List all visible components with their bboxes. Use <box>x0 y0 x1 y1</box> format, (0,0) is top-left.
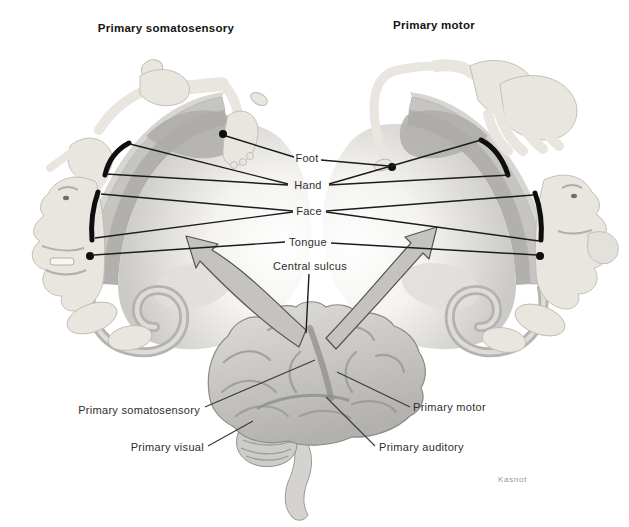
left-panel-title: Primary somatosensory <box>98 22 235 34</box>
right-panel-title: Primary motor <box>393 19 475 31</box>
brain-lateral-view <box>208 302 425 520</box>
sensory-foot-toe-2 <box>240 159 247 166</box>
sensory-homunculus-arm <box>99 90 146 130</box>
homunculus-diagram: Primary somatosensory Primary motor Foot… <box>0 0 629 527</box>
primary-auditory-label: Primary auditory <box>379 441 464 453</box>
motor-face-tongue <box>587 232 618 264</box>
primary-somatosensory-label: Primary somatosensory <box>78 404 200 416</box>
primary-visual-label: Primary visual <box>131 441 204 453</box>
sensory-face-teeth <box>50 258 74 265</box>
tongue-area-dot-right <box>536 252 544 260</box>
sensory-homunculus-torso <box>140 70 189 106</box>
sensory-face-eye <box>63 196 69 200</box>
motor-face-eye <box>571 194 577 198</box>
hand-label: Hand <box>294 179 322 191</box>
artist-signature: Kasnot <box>498 475 527 484</box>
primary-motor-label: Primary motor <box>413 401 486 413</box>
diagram-canvas: Primary somatosensory Primary motor Foot… <box>0 0 629 527</box>
tongue-label: Tongue <box>289 236 327 248</box>
sensory-homunculus-second-foot <box>248 90 269 109</box>
sensory-foot-toe-1 <box>231 162 238 169</box>
central-sulcus-label: Central sulcus <box>273 260 347 272</box>
motor-homunculus-thigh <box>436 65 474 74</box>
face-label: Face <box>296 205 322 217</box>
sensory-foot-toe-3 <box>247 153 254 160</box>
foot-area-dot-left <box>219 130 227 138</box>
tongue-area-dot-left <box>86 252 94 260</box>
foot-label: Foot <box>295 152 318 164</box>
